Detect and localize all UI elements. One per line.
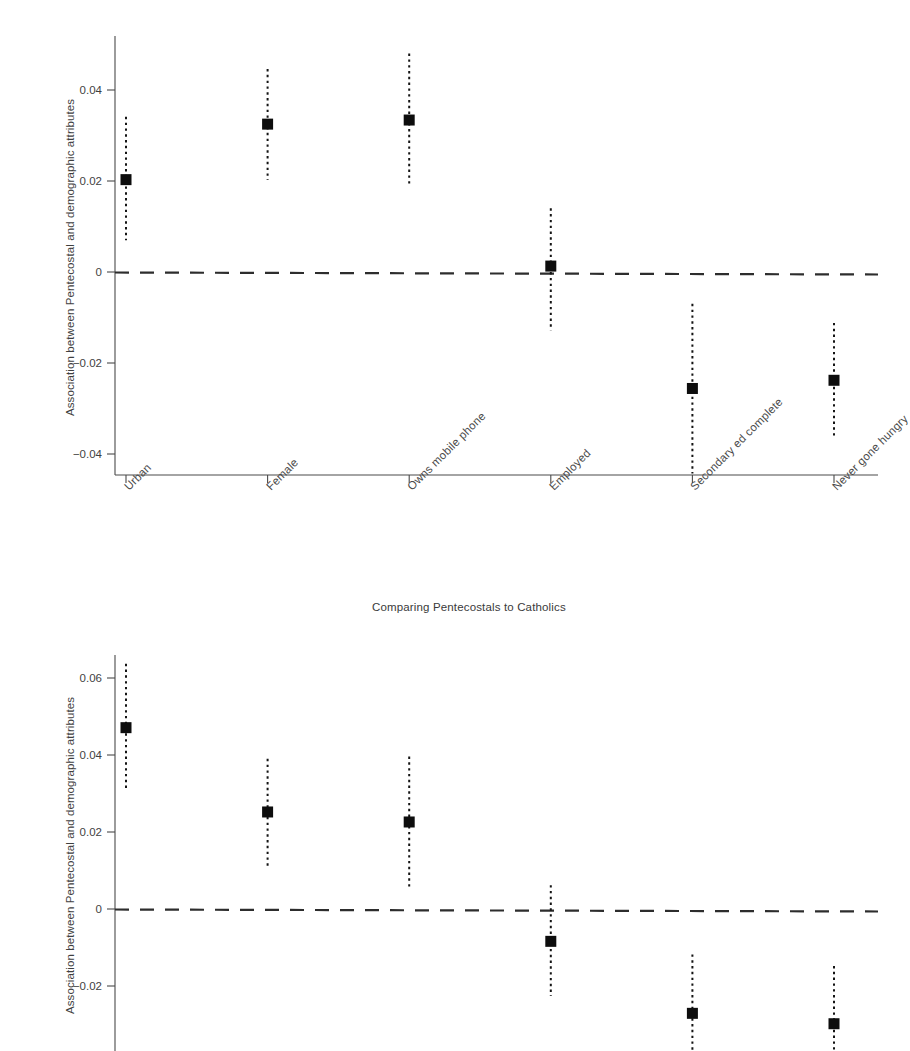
data-point-marker <box>121 722 132 733</box>
y-tick-label: 0.04 <box>80 749 103 761</box>
bottom-chart-plot-area: 0.060.040.020−0.02 <box>0 630 886 1051</box>
y-tick-label: 0.04 <box>80 84 103 96</box>
data-point-marker <box>687 1008 698 1019</box>
data-point-marker <box>687 383 698 394</box>
top-panel-caption: Comparing Pentecostals to Catholics <box>372 601 566 613</box>
y-tick-label: 0 <box>96 266 102 278</box>
data-point-marker <box>404 115 415 126</box>
y-tick-label: 0.02 <box>80 175 102 187</box>
bottom-y-axis-title: Association between Pentecostal and demo… <box>64 697 76 1014</box>
y-tick-label: 0.06 <box>80 672 102 684</box>
data-point-marker <box>829 375 840 386</box>
data-point-marker <box>262 119 273 130</box>
top-y-axis-title: Association between Pentecostal and demo… <box>64 98 76 415</box>
data-point-marker <box>404 816 415 827</box>
data-point-marker <box>829 1018 840 1029</box>
chart-panel-bottom: 0.060.040.020−0.02 Association between P… <box>0 630 886 1051</box>
y-tick-label: −0.04 <box>73 448 103 460</box>
top-chart-plot-area: 0.040.020−0.02−0.04 <box>0 0 886 630</box>
data-point-marker <box>121 174 132 185</box>
y-tick-label: −0.02 <box>73 980 102 992</box>
data-point-marker <box>262 806 273 817</box>
y-tick-label: −0.02 <box>73 357 102 369</box>
data-point-marker <box>545 261 556 272</box>
y-tick-label: 0.02 <box>80 826 102 838</box>
y-tick-label: 0 <box>96 903 102 915</box>
data-point-marker <box>545 936 556 947</box>
chart-panel-top: 0.040.020−0.02−0.04 Association between … <box>0 0 886 630</box>
